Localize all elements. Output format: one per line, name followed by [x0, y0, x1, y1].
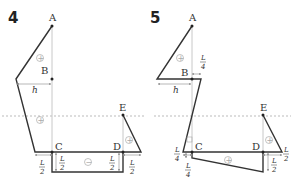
label-e: E — [260, 102, 267, 113]
point-d — [262, 151, 265, 154]
dimension-label: L 4 — [200, 54, 206, 71]
label-h: h — [32, 85, 38, 95]
svg-text:L: L — [271, 157, 277, 165]
svg-text:2: 2 — [59, 164, 65, 172]
svg-text:4: 4 — [200, 63, 205, 71]
figure-number: 4 — [8, 9, 18, 27]
dimension-label: L 2 — [129, 159, 135, 176]
sign-plus: + — [37, 54, 45, 63]
svg-text:4: 4 — [174, 155, 179, 163]
label-b: B — [41, 65, 48, 76]
point-e — [262, 114, 265, 117]
point-a — [191, 25, 194, 28]
svg-text:+: + — [127, 136, 134, 145]
figure-4: 4 A B C D E h + + + − L 2 L — [2, 9, 146, 176]
dimension-label: L 4 — [185, 162, 191, 179]
dimension-label: L 2 — [39, 159, 45, 176]
sign-minus — [187, 137, 192, 142]
svg-text:+: + — [38, 54, 45, 63]
svg-text:L: L — [109, 155, 115, 163]
svg-text:L: L — [174, 146, 180, 154]
svg-text:L: L — [283, 146, 289, 154]
label-b: B — [181, 67, 188, 78]
svg-text:2: 2 — [109, 164, 115, 172]
dimension-label: L 2 — [109, 155, 115, 172]
dimension-label: L 2 — [283, 146, 289, 163]
label-d: D — [252, 141, 260, 152]
label-d: D — [113, 141, 121, 152]
label-c: C — [55, 141, 63, 152]
svg-text:L: L — [129, 159, 135, 167]
svg-text:+: + — [38, 116, 45, 125]
label-a: A — [188, 12, 197, 23]
point-e — [122, 114, 125, 117]
sign-plus: + — [177, 54, 185, 63]
svg-text:+: + — [267, 136, 274, 145]
svg-text:L: L — [185, 162, 191, 170]
svg-text:L: L — [59, 155, 65, 163]
svg-text:2: 2 — [129, 168, 135, 176]
svg-text:4: 4 — [185, 171, 190, 179]
point-b — [191, 78, 194, 81]
dimension-label: L 4 — [174, 146, 180, 163]
sign-plus: + — [126, 136, 134, 145]
svg-text:L: L — [200, 54, 206, 62]
svg-text:2: 2 — [271, 166, 277, 174]
label-c: C — [195, 141, 203, 152]
point-b — [51, 78, 54, 81]
point-a — [51, 25, 54, 28]
figure-5: 5 A B C D E h L 4 + + + L — [150, 9, 291, 179]
point-d — [122, 151, 125, 154]
point-c — [51, 151, 54, 154]
dimension-label: L 2 — [271, 157, 277, 174]
svg-text:−: − — [86, 158, 93, 167]
svg-text:L: L — [39, 159, 45, 167]
point-c — [191, 151, 194, 154]
dimension-label: L 2 — [59, 155, 65, 172]
sign-minus: − — [85, 158, 93, 167]
sign-plus: + — [225, 156, 233, 165]
svg-text:+: + — [226, 156, 233, 165]
sign-plus: + — [266, 136, 274, 145]
diagram-canvas: 4 A B C D E h + + + − L 2 L — [0, 0, 299, 188]
svg-text:2: 2 — [39, 168, 45, 176]
label-a: A — [48, 12, 57, 23]
label-e: E — [119, 102, 126, 113]
svg-text:2: 2 — [283, 155, 289, 163]
sign-plus: + — [37, 116, 45, 125]
label-h: h — [173, 85, 179, 95]
figure-number: 5 — [150, 9, 160, 27]
svg-text:+: + — [178, 54, 185, 63]
